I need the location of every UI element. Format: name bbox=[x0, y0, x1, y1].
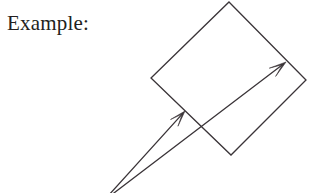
tilted-square bbox=[151, 2, 306, 155]
geometry-figure bbox=[0, 0, 312, 193]
figure-page: Example: bbox=[0, 0, 312, 193]
short-arrow bbox=[108, 111, 185, 193]
long-arrow bbox=[110, 62, 286, 193]
short-arrow-shaft bbox=[108, 114, 182, 193]
polygon-layer bbox=[151, 2, 306, 155]
long-arrow-head bbox=[269, 62, 286, 76]
